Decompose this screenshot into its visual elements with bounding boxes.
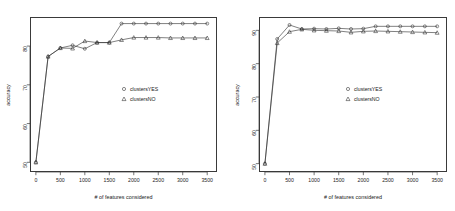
legend-circle-icon	[120, 84, 128, 94]
legend-circle-icon	[344, 84, 352, 94]
y-tick-label-2: 70	[251, 97, 257, 103]
x-tick-label-7: 3500	[431, 177, 443, 183]
chart-panel-right: 05001000150020002500300035005060708090# …	[227, 0, 455, 211]
legend-label: clustersNO	[130, 96, 156, 102]
x-tick-label-5: 2500	[382, 177, 394, 183]
x-tick-label-1: 500	[56, 177, 65, 183]
x-axis-title: # of features considered	[324, 194, 382, 200]
x-tick-label-3: 1500	[333, 177, 345, 183]
x-tick-label-0: 0	[263, 177, 266, 183]
x-tick-label-6: 3000	[407, 177, 419, 183]
y-tick-label-0: 50	[22, 162, 28, 168]
y-tick-label-0: 50	[251, 164, 257, 170]
x-axis-title: # of features considered	[95, 194, 153, 200]
x-tick-label-2: 1000	[308, 177, 320, 183]
y-tick-label-2: 70	[22, 85, 28, 91]
y-tick-label-3: 80	[22, 46, 28, 52]
y-tick-label-1: 60	[251, 130, 257, 136]
y-tick-label-3: 80	[251, 64, 257, 70]
x-tick-label-6: 3000	[177, 177, 189, 183]
chart-panel-left: 050010001500200025003000350050607080# of…	[0, 0, 227, 211]
y-axis-title: accuracy	[234, 84, 240, 106]
legend-triangle-icon	[344, 94, 352, 104]
x-tick-label-4: 2000	[358, 177, 370, 183]
legend-label: clustersNO	[354, 96, 380, 102]
x-tick-label-3: 1500	[104, 177, 116, 183]
y-tick-label-4: 90	[251, 30, 257, 36]
y-tick-label-1: 60	[22, 124, 28, 130]
x-tick-label-0: 0	[34, 177, 37, 183]
two-panel-accuracy-figure: 050010001500200025003000350050607080# of…	[0, 0, 455, 211]
x-tick-label-5: 2500	[152, 177, 164, 183]
legend-label: clustersYES	[130, 86, 158, 92]
legend-label: clustersYES	[354, 86, 382, 92]
x-tick-label-1: 500	[285, 177, 294, 183]
x-tick-label-2: 1000	[79, 177, 91, 183]
x-tick-label-4: 2000	[128, 177, 140, 183]
legend-triangle-icon	[120, 94, 128, 104]
x-tick-label-7: 3500	[201, 177, 213, 183]
y-axis-title: accuracy	[5, 84, 11, 106]
